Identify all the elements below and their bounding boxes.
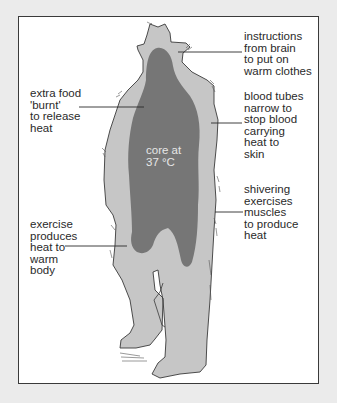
- label-exercise-produces-heat: exercise produces heat to warm body: [30, 219, 77, 277]
- label-instructions-from-brain: instructions from brain to put on warm c…: [244, 31, 312, 77]
- label-blood-tubes-narrow: blood tubes narrow to stop blood carryin…: [244, 91, 303, 160]
- label-shivering: shivering exercises muscles to produce h…: [244, 184, 298, 242]
- core-temperature-label: core at 37 °C: [146, 145, 181, 168]
- label-extra-food-burnt: extra food 'burnt' to release heat: [30, 88, 81, 134]
